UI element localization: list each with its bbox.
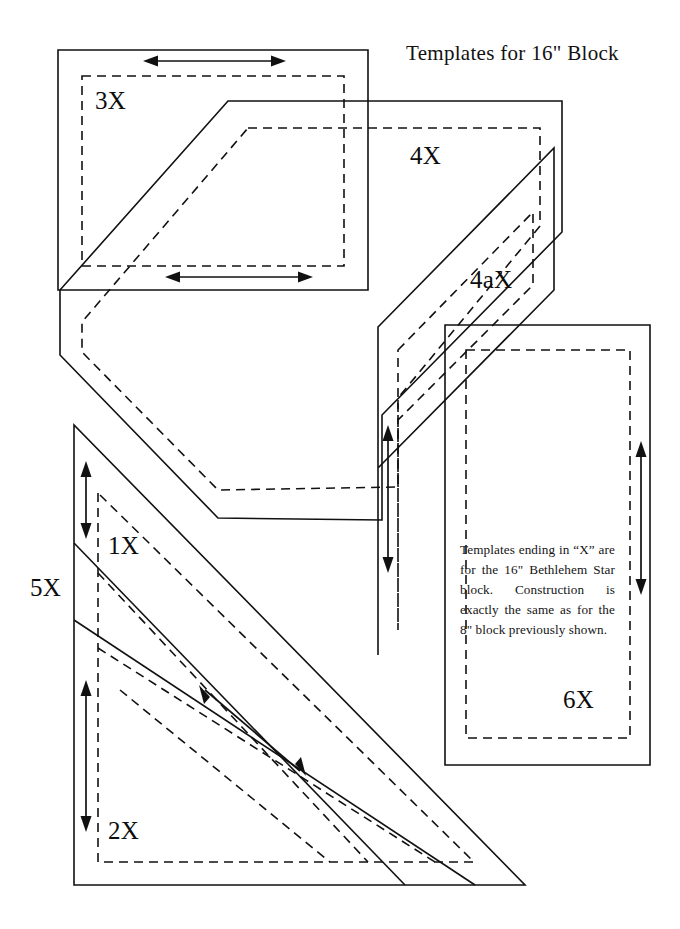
label-5x: 5X	[30, 575, 61, 600]
template-5x-seam-line	[98, 493, 474, 862]
template-1x-cut-line-lower	[74, 620, 475, 885]
label-6x: 6X	[563, 687, 594, 712]
template-4x-seam-line	[82, 128, 540, 490]
label-4ax: 4aX	[470, 267, 512, 292]
label-3x: 3X	[95, 88, 126, 113]
template-drawing	[0, 0, 680, 929]
template-4x-group	[60, 101, 562, 520]
template-1x-seam-line-lower	[98, 648, 435, 862]
grain-arrow-4ax	[383, 425, 394, 573]
template-sheet-page: Templates for 16" Block 3X 4X 4aX 5X 1X …	[0, 0, 680, 929]
label-2x: 2X	[108, 818, 139, 843]
page-title: Templates for 16" Block	[406, 41, 619, 66]
template-triangles-group	[74, 425, 525, 885]
label-4x: 4X	[410, 143, 441, 168]
grain-arrow-3x-bottom	[165, 272, 313, 283]
explanatory-note: Templates ending in “X” are for the 16" …	[460, 540, 615, 640]
grain-arrow-6x	[636, 441, 647, 595]
grain-arrow-3x-top	[143, 56, 286, 67]
grain-arrow-5x-lower	[81, 680, 92, 832]
template-5x-cut-line	[74, 425, 525, 885]
grain-arrow-5x-upper	[81, 461, 92, 539]
grain-arrow-2x-diagonal	[199, 685, 306, 776]
label-1x: 1X	[108, 533, 139, 558]
template-4x-cut-line	[60, 101, 562, 520]
